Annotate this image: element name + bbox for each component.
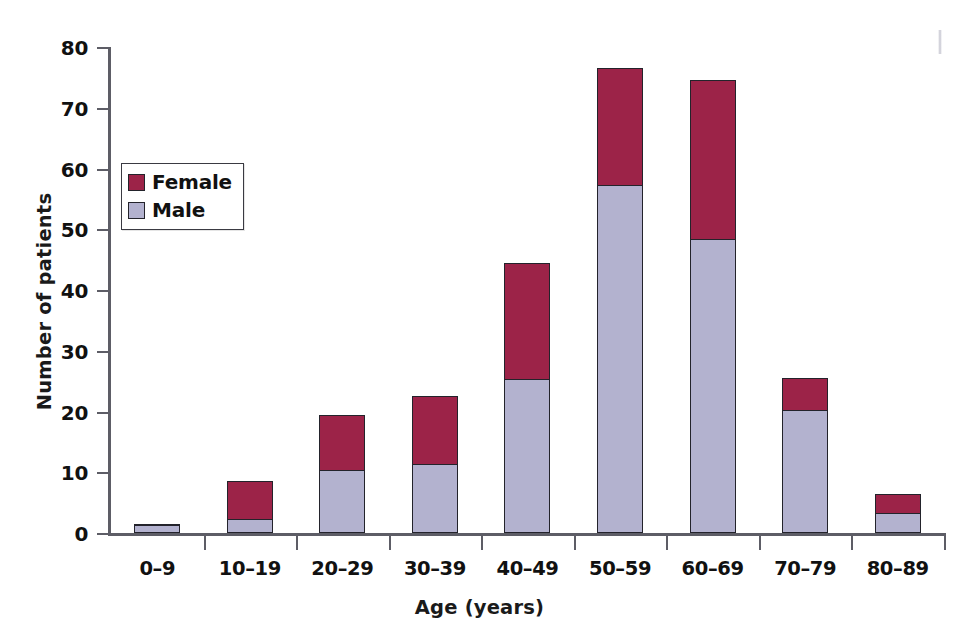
y-tick-label: 10 <box>61 461 88 485</box>
x-tick <box>759 536 761 550</box>
y-tick-label: 60 <box>61 158 88 182</box>
stacked-bar[interactable] <box>782 378 828 533</box>
y-tick-label: 40 <box>61 279 88 303</box>
bar-segment-male <box>320 470 364 532</box>
x-tick <box>666 536 668 550</box>
legend-item-female: Female <box>128 168 232 196</box>
legend-item-male: Male <box>128 196 232 224</box>
x-tick <box>574 536 576 550</box>
x-tick-label: 50–59 <box>589 557 651 580</box>
bar-segment-female <box>783 379 827 409</box>
x-tick-label: 0–9 <box>139 557 175 580</box>
bar-segment-female <box>228 482 272 518</box>
bar-slot <box>666 47 759 533</box>
stacked-bar[interactable] <box>319 415 365 533</box>
x-tick-label: 10–19 <box>219 557 281 580</box>
bar-segment-male <box>228 519 272 532</box>
legend-swatch-male-icon <box>128 202 145 219</box>
x-tick <box>296 536 298 550</box>
y-tick: 50 <box>97 229 108 231</box>
x-tick <box>389 536 391 550</box>
x-tick-label: 20–29 <box>311 557 373 580</box>
x-tick-label: 40–49 <box>496 557 558 580</box>
bar-slot <box>759 47 852 533</box>
y-tick: 60 <box>97 169 108 171</box>
y-tick-label: 50 <box>61 218 88 242</box>
bar-segment-female <box>413 397 457 464</box>
x-axis-line <box>108 533 946 536</box>
stacked-bar[interactable] <box>412 396 458 533</box>
bar-segment-male <box>413 464 457 532</box>
legend-label-male: Male <box>152 198 205 222</box>
bar-segment-female <box>320 416 364 471</box>
y-tick-label: 20 <box>61 401 88 425</box>
y-tick: 30 <box>97 351 108 353</box>
y-tick-label: 0 <box>74 522 88 546</box>
stacked-bar[interactable] <box>875 494 921 533</box>
y-tick: 20 <box>97 412 108 414</box>
stacked-bar[interactable] <box>597 68 643 533</box>
y-tick-label: 30 <box>61 340 88 364</box>
y-tick: 70 <box>97 108 108 110</box>
x-tick-label: 60–69 <box>682 557 744 580</box>
x-tick-label: 70–79 <box>774 557 836 580</box>
bar-slot <box>574 47 667 533</box>
x-axis-title: Age (years) <box>0 596 959 619</box>
y-tick: 10 <box>97 472 108 474</box>
x-tick-label: 30–39 <box>404 557 466 580</box>
plot-area: 01020304050607080 0–910–1920–2930–3940–4… <box>108 47 944 535</box>
chart-legend: Female Male <box>121 163 244 230</box>
x-tick <box>851 536 853 550</box>
y-axis-title: Number of patients <box>33 92 56 512</box>
stacked-bar[interactable] <box>227 481 273 533</box>
x-tick <box>944 536 946 550</box>
bar-segment-female <box>691 81 735 239</box>
bar-segment-female <box>876 495 920 513</box>
bar-slot <box>481 47 574 533</box>
bar-segment-male <box>505 379 549 532</box>
bar-segment-male <box>783 410 827 533</box>
stacked-bar[interactable] <box>504 263 550 533</box>
x-tick <box>481 536 483 550</box>
bar-slot <box>111 47 204 533</box>
bar-segment-male <box>876 513 920 532</box>
legend-label-female: Female <box>152 170 232 194</box>
bar-slot <box>204 47 297 533</box>
legend-swatch-female-icon <box>128 174 145 191</box>
bar-segment-male <box>135 525 179 532</box>
x-tick <box>204 536 206 550</box>
bar-segment-female <box>598 69 642 184</box>
bar-segment-male <box>691 239 735 532</box>
bar-segment-female <box>505 264 549 379</box>
chart-figure: Number of patients Age (years) 010203040… <box>0 0 959 643</box>
stacked-bar[interactable] <box>134 524 180 533</box>
y-tick-label: 80 <box>61 36 88 60</box>
bar-slot <box>389 47 482 533</box>
bar-group <box>111 47 944 533</box>
y-tick: 0 <box>97 533 108 535</box>
bar-slot <box>296 47 389 533</box>
y-tick-label: 70 <box>61 97 88 121</box>
bar-segment-male <box>598 185 642 532</box>
x-tick-label: 80–89 <box>867 557 929 580</box>
y-tick: 40 <box>97 290 108 292</box>
scan-artifact <box>938 30 942 54</box>
bar-slot <box>851 47 944 533</box>
stacked-bar[interactable] <box>690 80 736 533</box>
y-tick: 80 <box>97 47 108 49</box>
